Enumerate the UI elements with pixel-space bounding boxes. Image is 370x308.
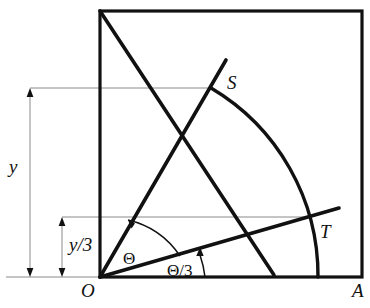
label-dimension-y-third: y/3 [69, 235, 92, 254]
label-point-o: O [81, 281, 95, 300]
dimension-lines-group [6, 88, 362, 277]
label-dimension-y: y [9, 157, 17, 176]
angle-arc-theta-third [200, 255, 205, 277]
label-point-t: T [320, 222, 331, 241]
geometry-diagram: O A S T y y/3 Θ Θ/3 [0, 0, 370, 308]
arrowhead-y-top [27, 88, 34, 97]
label-point-s: S [227, 73, 237, 92]
label-angle-theta: Θ [123, 250, 135, 267]
circular-arc [211, 88, 318, 277]
angle-arc-theta [128, 220, 180, 256]
label-point-a: A [352, 281, 364, 300]
arrowhead-y-bottom [27, 268, 34, 277]
label-angle-theta-third: Θ/3 [167, 262, 193, 279]
dimension-arrowheads-group [27, 88, 66, 277]
arrowhead-y-third-bottom [59, 268, 66, 277]
arrowhead-y-third-top [59, 217, 66, 226]
